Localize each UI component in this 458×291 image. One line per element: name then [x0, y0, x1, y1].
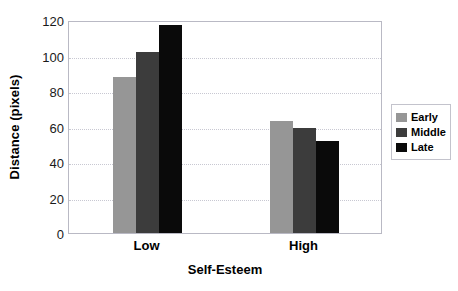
- legend-item-late: Late: [396, 140, 446, 154]
- x-axis-title: Self-Esteem: [68, 262, 382, 277]
- legend-swatch-icon: [396, 143, 407, 152]
- y-tick-label: 100: [42, 49, 64, 64]
- bars-layer: [69, 22, 381, 233]
- legend-label: Middle: [411, 127, 446, 138]
- legend-label: Early: [411, 112, 438, 123]
- y-axis-title: Distance (pixels): [1, 21, 27, 234]
- y-axis-tick-labels: 020406080100120: [28, 21, 64, 234]
- bar-chart: Distance (pixels) 020406080100120 LowHig…: [0, 0, 458, 291]
- bar: [293, 128, 316, 233]
- bar: [136, 52, 159, 233]
- x-tick-label: High: [289, 238, 318, 253]
- x-tick-label: Low: [134, 238, 160, 253]
- x-axis-tick-labels: LowHigh: [68, 238, 382, 258]
- legend-item-early: Early: [396, 110, 446, 124]
- bar: [270, 121, 293, 233]
- bar: [159, 25, 182, 233]
- legend-item-middle: Middle: [396, 125, 446, 139]
- legend-swatch-icon: [396, 128, 407, 137]
- y-tick-label: 120: [42, 14, 64, 29]
- y-tick-label: 60: [50, 120, 64, 135]
- legend-swatch-icon: [396, 113, 407, 122]
- y-tick-label: 20: [50, 191, 64, 206]
- legend: EarlyMiddleLate: [391, 104, 451, 160]
- y-tick-label: 80: [50, 85, 64, 100]
- y-tick-label: 40: [50, 156, 64, 171]
- y-tick-label: 0: [57, 227, 64, 242]
- bar: [316, 141, 339, 233]
- plot-area: [68, 21, 382, 234]
- legend-label: Late: [411, 142, 434, 153]
- bar: [113, 77, 136, 233]
